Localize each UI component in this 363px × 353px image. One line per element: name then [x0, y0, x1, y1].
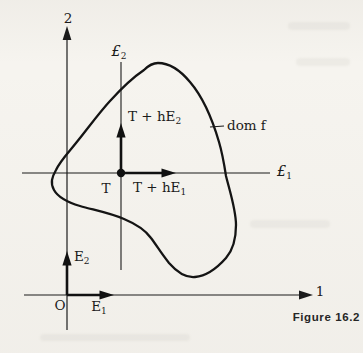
axis-2-label: 2: [64, 12, 73, 26]
axis-1-arrowhead-icon: [299, 291, 313, 300]
line-l1-label: £1: [277, 164, 292, 181]
dom-f-boundary: [52, 63, 236, 277]
t-plus-he2-label: T + hE2: [128, 110, 181, 126]
vector-e1-arrowhead-icon: [100, 290, 115, 299]
vector-e2-arrowhead-icon: [62, 251, 71, 266]
vector-e2-label: E2: [74, 250, 90, 266]
axis-1-label: 1: [316, 285, 325, 299]
figure-caption: Figure 16.2: [293, 311, 360, 323]
figure-16-2: 2 1 £2 £1 T + hE2 T T + hE1 dom f E2 O E…: [0, 0, 363, 353]
vector-t-he2-arrowhead-icon: [116, 123, 125, 138]
axis-2-arrowhead-icon: [63, 26, 72, 40]
vector-t-he1-arrowhead-icon: [162, 168, 177, 177]
origin-label: O: [54, 299, 65, 313]
t-plus-he1-label: T + hE1: [133, 181, 186, 197]
dom-f-leader-line: [210, 126, 224, 127]
vector-e1-label: E1: [91, 300, 107, 316]
point-t-label: T: [101, 182, 110, 196]
line-l2-label: £2: [112, 44, 127, 61]
dom-f-label: dom f: [227, 119, 266, 133]
